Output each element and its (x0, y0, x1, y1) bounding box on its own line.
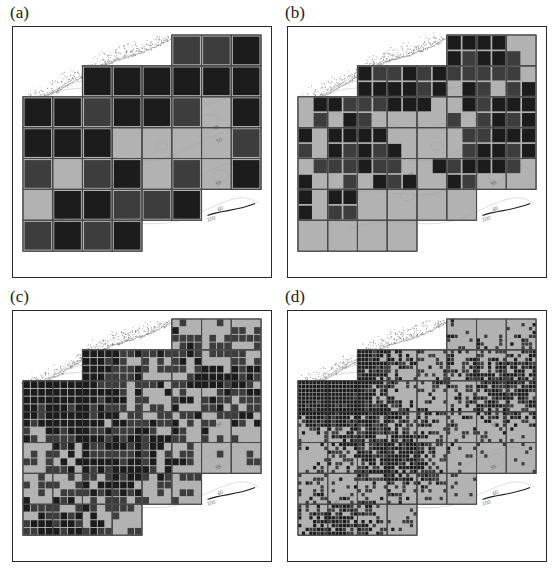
grid-cell (317, 412, 320, 415)
grid-cell (328, 404, 331, 407)
grid-cell (105, 366, 111, 373)
grid-cell (46, 451, 52, 458)
grid-cell (417, 447, 420, 450)
grid-cell (488, 366, 491, 369)
grid-cell (83, 412, 89, 419)
grid-cell (495, 366, 498, 369)
grid-cell (414, 451, 417, 454)
grid-cell (477, 67, 490, 81)
grid-cell (458, 408, 461, 411)
grid-cell (466, 416, 469, 419)
grid-cell (75, 513, 81, 520)
grid-cell (128, 435, 134, 442)
grid-cell (403, 175, 416, 189)
grid-cell (488, 439, 491, 442)
grid-cell (384, 393, 387, 396)
grid-cell (298, 505, 301, 508)
grid-cell (332, 400, 335, 403)
grid-cell (525, 400, 528, 403)
grid-cell (373, 82, 386, 96)
grid-cell (350, 420, 353, 423)
grid-cell (447, 369, 450, 372)
grid-cell (98, 528, 104, 535)
grid-cell (492, 358, 495, 361)
grid-cell (75, 381, 81, 388)
grid-cell (317, 520, 320, 523)
grid-cell (365, 451, 368, 454)
grid-cell (533, 323, 536, 326)
grid-cell (521, 462, 524, 465)
grid-cell (533, 362, 536, 365)
grid-cell (202, 420, 208, 427)
grid-cell (384, 431, 387, 434)
grid-cell (180, 389, 186, 396)
grid-cell (180, 435, 186, 442)
grid-cell (402, 485, 405, 488)
grid-cell (447, 447, 450, 450)
grid-cell (335, 462, 338, 465)
grid-cell (232, 350, 238, 357)
grid-cell (529, 400, 532, 403)
grid-cell (31, 381, 37, 388)
grid-cell (414, 420, 417, 423)
grid-cell (150, 428, 156, 435)
grid-cell (113, 397, 119, 404)
grid-cell (433, 67, 446, 81)
grid-cell (339, 451, 342, 454)
grid-cell (428, 393, 431, 396)
grid-cell (339, 393, 342, 396)
grid-cell (402, 362, 405, 365)
grid-cell (321, 528, 324, 531)
grid-cell (128, 451, 134, 458)
grid-cell (187, 451, 193, 458)
grid-cell (324, 423, 327, 426)
grid-cell (492, 377, 495, 380)
grid-cell (481, 366, 484, 369)
grid-cell (309, 396, 312, 399)
grid-cell (202, 366, 208, 373)
grid-cell (518, 335, 521, 338)
grid-cell (324, 512, 327, 515)
grid-cell (313, 416, 316, 419)
grid-cell (365, 478, 368, 481)
grid-cell (98, 397, 104, 404)
grid-cell (358, 354, 361, 357)
grid-cell (339, 416, 342, 419)
grid-cell (53, 520, 59, 527)
grid-cell (302, 389, 305, 392)
grid-cell (373, 466, 376, 469)
grid-cell (425, 478, 428, 481)
grid-cell (440, 458, 443, 461)
grid-cell (507, 393, 510, 396)
grid-cell (113, 373, 119, 380)
grid-cell (105, 497, 111, 504)
grid-cell (473, 366, 476, 369)
grid-cell (380, 447, 383, 450)
grid-cell (473, 408, 476, 411)
grid-cell (306, 501, 309, 504)
grid-cell (113, 466, 119, 473)
grid-cell (165, 366, 171, 373)
grid-cell (350, 493, 353, 496)
panel-d-map: 45505560100455055 (288, 311, 546, 561)
grid-cell (321, 485, 324, 488)
grid-cell (473, 447, 476, 450)
grid-cell (343, 508, 346, 511)
grid-cell (440, 481, 443, 484)
grid-cell (380, 454, 383, 457)
grid-cell (350, 443, 353, 446)
grid-cell (46, 528, 52, 535)
grid-cell (120, 428, 126, 435)
grid-cell (120, 466, 126, 473)
grid-cell (105, 451, 111, 458)
grid-cell (488, 412, 491, 415)
grid-cell (507, 381, 510, 384)
grid-cell (499, 389, 502, 392)
grid-cell (68, 443, 74, 450)
grid-cell (354, 478, 357, 481)
grid-cell (31, 412, 37, 419)
grid-cell (406, 385, 409, 388)
grid-cell (180, 397, 186, 404)
grid-cell (395, 431, 398, 434)
grid-cell (447, 385, 450, 388)
